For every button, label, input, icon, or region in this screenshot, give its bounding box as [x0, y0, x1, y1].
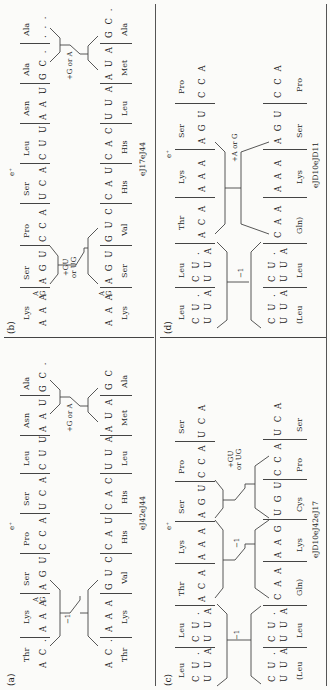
panel-b: (b) e⁺ Lys Ser Pro Ser Leu Asn Ala Ala A…: [0, 0, 155, 338]
rotated-figure-page: (a) e⁺ Thr Lys Ser Pro Ser Leu Asn Ala A…: [0, 0, 330, 690]
frameshift-arrows: [157, 0, 327, 338]
panel-d: (d) e⁺ Leu Leu Thr Lys Ser Pro C U . C U…: [157, 0, 327, 338]
panel-a: (a) e⁺ Thr Lys Ser Pro Ser Leu Asn Ala A…: [0, 340, 155, 690]
frameshift-arrows: [157, 340, 327, 690]
panel-c: (c) e⁺ Leu Leu Thr Lys Ser Pro Ser C U .…: [157, 340, 327, 690]
horizontal-divider: [155, 4, 156, 686]
frameshift-arrows: [0, 0, 155, 338]
frameshift-arrows: [0, 340, 155, 690]
